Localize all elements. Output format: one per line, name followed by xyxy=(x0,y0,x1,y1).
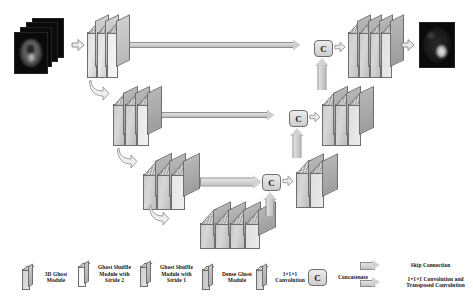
architecture-diagram: C C C xyxy=(0,0,473,305)
skip-connection-level-3 xyxy=(200,174,262,190)
input-to-encoder-chevron-icon xyxy=(71,38,85,52)
legend-item-4: 1×1×1 Convolution xyxy=(256,266,310,288)
skip-connection-level-2 xyxy=(162,110,274,120)
encoder-block-level-3 xyxy=(143,160,195,208)
upsample-arrow-level-2-to-level-1 xyxy=(314,58,330,90)
concat-node-level-3[interactable]: C xyxy=(262,174,281,191)
input-mri-stack xyxy=(14,18,70,76)
legend-label-4: 1×1×1 Convolution xyxy=(270,271,310,284)
concat-2-out-chevron-icon xyxy=(309,110,321,124)
concat-node-level-2[interactable]: C xyxy=(289,110,308,127)
legend-arrow-item-1: 1×1×1 Convolution and Transposed Convolu… xyxy=(360,276,473,289)
decoder-block-level-3 xyxy=(296,160,338,206)
ghost-module-slab-icon xyxy=(22,266,31,288)
skip-connection-level-1 xyxy=(130,40,300,50)
concat-node-level-1[interactable]: C xyxy=(314,40,333,57)
skip-connection-arrow-icon xyxy=(360,260,382,270)
downsample-hook-level-3-to-bottleneck xyxy=(148,203,170,229)
legend-arrow-label-0: Skip Connection xyxy=(388,262,473,268)
ghost-shuffle-stride1-slab-icon xyxy=(140,263,149,285)
transposed-conv-arrow-icon xyxy=(360,277,382,287)
upsample-arrow-level-3-to-level-2 xyxy=(289,128,305,158)
downsample-hook-level-1-to-2 xyxy=(88,78,110,104)
legend-item-1: Ghost Shuffle Module with Stride 2 xyxy=(78,263,137,285)
decoder-block-level-1 xyxy=(348,20,406,78)
legend-item-3: Dense Ghost Module xyxy=(202,266,258,288)
concatenate-node-icon: C xyxy=(308,269,327,286)
downsample-hook-level-2-to-3 xyxy=(116,146,138,172)
concat-1-out-chevron-icon xyxy=(334,40,346,54)
legend-item-0: 3D Ghost Module xyxy=(22,266,76,288)
legend-label-3: Dense Ghost Module xyxy=(216,271,258,284)
legend-label-1: Ghost Shuffle Module with Stride 2 xyxy=(92,264,137,283)
legend-label-2: Ghost Shuffle Module with Stride 1 xyxy=(154,264,199,283)
decoder-to-output-chevron-icon xyxy=(401,38,415,52)
encoder-block-level-2 xyxy=(113,92,159,144)
ghost-shuffle-stride2-slab-icon xyxy=(78,263,87,285)
upsample-arrow-bottleneck-to-level-3 xyxy=(262,192,278,216)
conv1x1x1-slab-icon xyxy=(256,266,265,288)
mri-slice-front xyxy=(14,32,48,74)
encoder-block-level-1 xyxy=(87,20,127,76)
legend-arrow-item-0: Skip Connection xyxy=(360,260,473,270)
decoder-block-level-2 xyxy=(322,92,372,144)
output-segmentation-image xyxy=(419,22,455,68)
legend-arrow-label-1: 1×1×1 Convolution and Transposed Convolu… xyxy=(388,276,473,289)
legend: 3D Ghost Module Ghost Shuffle Module wit… xyxy=(0,252,473,305)
legend-item-2: Ghost Shuffle Module with Stride 1 xyxy=(140,263,199,285)
concat-3-out-chevron-icon xyxy=(282,174,294,188)
dense-ghost-slab-icon xyxy=(202,266,211,288)
legend-label-0: 3D Ghost Module xyxy=(36,271,76,284)
